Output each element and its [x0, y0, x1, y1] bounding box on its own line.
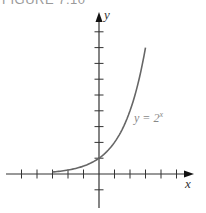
curve-label: y = 2x	[133, 110, 163, 125]
curve-label-exponent: x	[158, 110, 163, 119]
x-axis-label: x	[184, 176, 191, 191]
curve-label-text: y = 2	[133, 111, 159, 125]
axes	[6, 12, 194, 208]
y-axis-label: y	[102, 7, 110, 22]
exponential-chart: x y y = 2x	[0, 0, 206, 213]
